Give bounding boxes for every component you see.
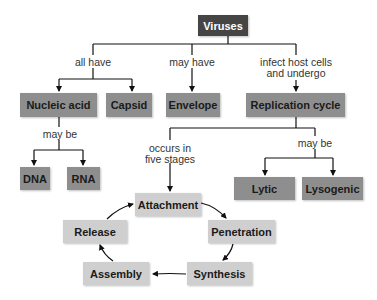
capsid-box: Capsid: [106, 93, 152, 117]
replication-cycle-box: Replication cycle: [246, 93, 345, 117]
lytic-box: Lytic: [234, 177, 295, 200]
link-cycle-may-be: may be: [298, 137, 332, 149]
envelope-box: Envelope: [166, 93, 220, 117]
nucleic-acid-box: Nucleic acid: [20, 93, 97, 117]
synthesis-box: Synthesis: [187, 262, 252, 285]
lysogenic-box: Lysogenic: [302, 177, 363, 200]
link-may-have: may have: [169, 56, 215, 68]
release-box: Release: [63, 220, 127, 243]
link-infect-line2: and undergo: [267, 67, 326, 79]
link-all-have: all have: [75, 56, 111, 68]
dna-box: DNA: [20, 167, 50, 190]
assembly-box: Assembly: [83, 262, 149, 285]
attachment-box: Attachment: [135, 193, 201, 216]
viruses-box: Viruses: [198, 15, 248, 36]
link-nucleic-may-be: may be: [43, 128, 77, 140]
rna-box: RNA: [67, 167, 100, 190]
link-occurs-line2: five stages: [145, 153, 195, 165]
penetration-box: Penetration: [208, 220, 275, 243]
